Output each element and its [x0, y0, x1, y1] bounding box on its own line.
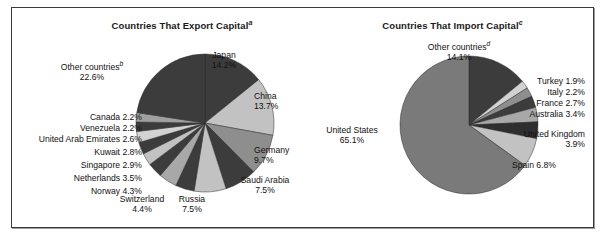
- label-other-countries-export-superscript: b: [120, 60, 124, 67]
- label-united-arab-emirates: United Arab Emirates 2.6%: [12, 134, 142, 144]
- chart-panel-import: Countries That Import Capitalc Other cou…: [304, 8, 595, 229]
- label-italy: Italy 2.2%: [474, 87, 585, 97]
- label-germany: Germany9.7%: [254, 145, 308, 166]
- label-united-states-value: 65.1%: [340, 135, 364, 145]
- label-france: France 2.7%: [474, 98, 585, 108]
- pie-slices-export: Japan 14.2%China 13.7%Germany 9.7%Saudi …: [136, 54, 274, 192]
- label-other-countries-export-name: Other countries: [61, 62, 120, 72]
- label-germany-value: 9.7%: [254, 155, 274, 165]
- label-saudi-arabia-name: Saudi Arabia: [241, 175, 290, 185]
- label-norway: Norway 4.3%: [12, 186, 142, 196]
- label-united-kingdom: United Kingdom3.9%: [464, 129, 585, 150]
- label-united-kingdom-name: United Kingdom: [524, 129, 585, 139]
- label-other-countries-import-superscript: d: [487, 40, 491, 47]
- chart-title-export-superscript: a: [248, 19, 252, 26]
- label-other-countries-import: Other countriesd14.1%: [404, 39, 514, 63]
- label-russia-name: Russia: [179, 194, 205, 204]
- label-russia: Russia7.5%: [170, 194, 214, 215]
- label-kuwait: Kuwait 2.8%: [12, 147, 142, 157]
- label-russia-value: 7.5%: [182, 204, 202, 214]
- label-spain: Spain 6.8%: [512, 160, 592, 170]
- label-united-kingdom-value: 3.9%: [565, 139, 585, 149]
- chart-title-import: Countries That Import Capitalc: [304, 19, 595, 31]
- label-australia: Australia 3.4%: [474, 109, 585, 119]
- label-singapore: Singapore 2.9%: [12, 160, 142, 170]
- label-japan: Japan14.2%: [194, 50, 254, 71]
- label-other-countries-import-value: 14.1%: [447, 52, 471, 62]
- chart-title-export: Countries That Export Capitala: [12, 19, 304, 31]
- label-switzerland: Switzerland4.4%: [112, 194, 172, 215]
- chart-title-import-superscript: c: [519, 19, 523, 26]
- label-germany-name: Germany: [254, 145, 289, 155]
- label-saudi-arabia-value: 7.5%: [255, 185, 275, 195]
- label-canada: Canada 2.2%: [12, 112, 142, 122]
- label-china-name: China: [254, 91, 276, 101]
- label-china-value: 13.7%: [254, 101, 278, 111]
- label-netherlands: Netherlands 3.5%: [12, 173, 142, 183]
- label-other-countries-import-name: Other countries: [428, 42, 487, 52]
- label-switzerland-value: 4.4%: [132, 204, 152, 214]
- label-turkey: Turkey 1.9%: [474, 76, 585, 86]
- label-other-countries-export-value: 22.6%: [80, 72, 104, 82]
- label-china: China13.7%: [254, 91, 306, 112]
- label-saudi-arabia: Saudi Arabia7.5%: [230, 175, 300, 196]
- label-japan-value: 14.2%: [212, 60, 236, 70]
- chart-panel-export: Countries That Export Capitala Japan 14.…: [12, 8, 304, 229]
- label-other-countries-export: Other countriesb22.6%: [46, 59, 138, 83]
- label-united-states-name: United States: [326, 125, 378, 135]
- figure-frame: Countries That Export Capitala Japan 14.…: [11, 7, 594, 228]
- label-japan-name: Japan: [212, 50, 235, 60]
- label-united-states: United States65.1%: [310, 125, 394, 146]
- chart-title-export-text: Countries That Export Capital: [112, 20, 249, 31]
- chart-title-import-text: Countries That Import Capital: [382, 20, 518, 31]
- pie-chart-import: Other countries 14.1%Turkey 1.9%Italy 2.…: [394, 49, 544, 201]
- label-venezuela: Venezuela 2.2%: [12, 123, 142, 133]
